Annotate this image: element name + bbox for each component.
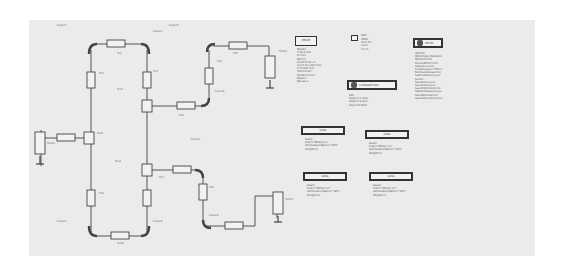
tee-label: Tee2 (117, 88, 123, 91)
tline-label: TL5 (233, 52, 238, 55)
curve-label: Curve2 (153, 30, 162, 33)
goal-params: Goal2 Expr="dB(S(2,1))" SimInstanceName=… (369, 142, 402, 155)
tline-label: TL7 (159, 176, 164, 179)
schematic-canvas[interactable]: Curve1 TL1 Curve2 Curve5 TL2 TL3 Tee2 TL… (29, 20, 535, 256)
tline-label: TL3 (153, 70, 158, 73)
curve-label: Curve3 (57, 220, 66, 223)
optim-params: Optim1 OptimType=Random MaxIters=50 Desi… (415, 52, 443, 100)
optim-block[interactable]: OPTIM (413, 38, 443, 48)
curve-label: Curve7 (191, 138, 200, 141)
goal-params: Goal1 Expr="dB(S(1,1))" SimInstanceName=… (305, 138, 338, 151)
optim-icon (417, 40, 423, 46)
curve-label: Curve8 (209, 214, 218, 217)
curve-label: Curve6 (215, 90, 224, 93)
tline-label: TL10 (117, 242, 123, 245)
goal-params: Goal4 Expr="dB(S(2,3))" SimInstanceName=… (373, 184, 406, 197)
tline-label: TL8 (99, 192, 104, 195)
var-params: VAR1 w=1.53 l=8.2 r=2.5 (361, 38, 371, 51)
sparam-title: S-PARAMETERS (359, 84, 379, 87)
schematic-wires (29, 20, 535, 256)
goal-block-4[interactable]: GOAL (369, 172, 413, 181)
tline-label: TL6 (179, 114, 184, 117)
tee-label: Tee3 (115, 160, 121, 163)
sparam-params: SP1 Start=2.1 GHz Stop=2.6 GHz Step=10 M… (349, 94, 368, 107)
term1-label: Term1 (47, 142, 55, 145)
goal-params: Goal3 Expr="dB(S(3,1))" SimInstanceName=… (307, 184, 340, 197)
curve-label: Curve1 (57, 24, 66, 27)
tline-tl1 (87, 72, 95, 88)
curve-label: Curve4 (153, 220, 162, 223)
msub-block[interactable]: MSUB (295, 36, 317, 46)
term2-label: Term2 (279, 50, 287, 53)
sparam-block[interactable]: S-PARAMETERS (347, 80, 397, 90)
tline-label: TL2 (99, 72, 104, 75)
goal-block-1[interactable]: GOAL (301, 126, 345, 135)
msub-params: MSub1 H=0.8 mm Er=4.4 Mur=1 Cond=5.8E+7 … (297, 48, 322, 83)
tline-label: TL9 (209, 186, 214, 189)
var-block[interactable] (351, 35, 358, 41)
tline-label: TL1 (117, 52, 122, 55)
curve-label: Curve5 (169, 24, 178, 27)
tline-label: TL4 (217, 60, 222, 63)
term3-label: Term3 (285, 198, 293, 201)
goal-block-3[interactable]: GOAL (303, 172, 347, 181)
optim-title: OPTIM (425, 42, 433, 45)
goal-block-2[interactable]: GOAL (365, 130, 409, 139)
sparam-icon (351, 82, 357, 88)
var-title: VAR (361, 34, 366, 37)
tee-label: Tee1 (97, 132, 103, 135)
